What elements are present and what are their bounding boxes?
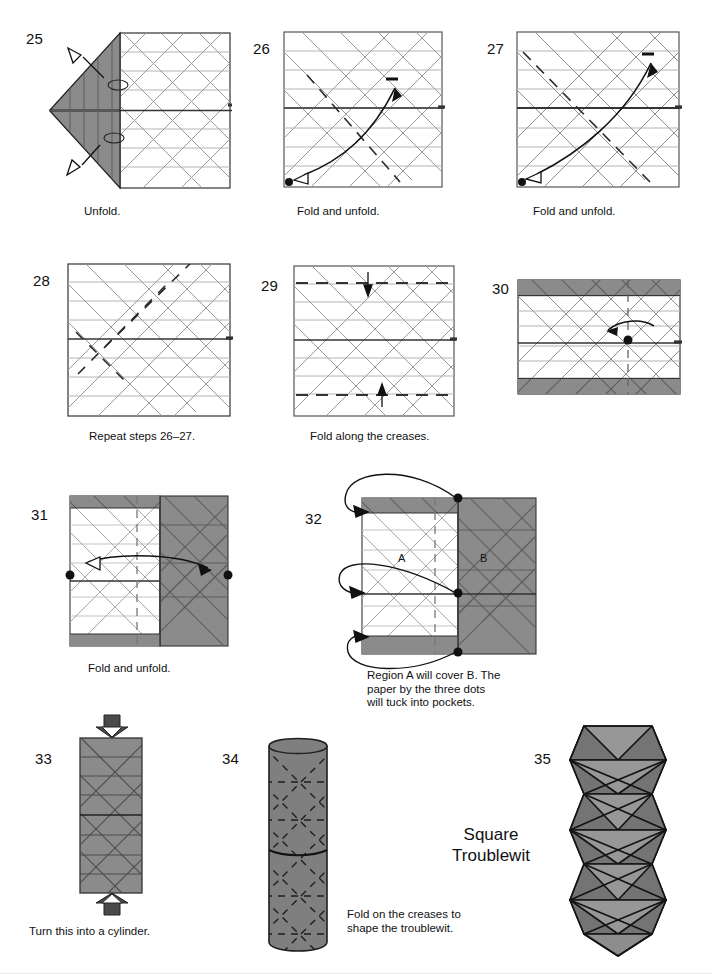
step-caption-32: Region A will cover B. The paper by the … bbox=[367, 669, 547, 710]
step-caption-25: Unfold. bbox=[84, 204, 120, 218]
diagram-page: 25 bbox=[0, 0, 712, 974]
step-figure-25 bbox=[40, 25, 240, 205]
step-figure-31 bbox=[60, 492, 240, 654]
step-figure-26 bbox=[282, 30, 452, 195]
step-caption-34: Fold on the creases to shape the trouble… bbox=[347, 908, 517, 935]
step-number-29: 29 bbox=[261, 277, 278, 294]
step-figure-27 bbox=[515, 30, 690, 195]
reference-dot-right bbox=[224, 571, 233, 580]
step-figure-32: A B bbox=[290, 480, 550, 660]
press-arrow-bottom bbox=[96, 893, 128, 915]
step-figure-34 bbox=[255, 728, 355, 958]
model-name: Square Troublewit bbox=[432, 824, 550, 866]
model-name-line1: Square bbox=[432, 824, 550, 845]
model-name-line2: Troublewit bbox=[432, 845, 550, 866]
step-figure-28 bbox=[66, 262, 238, 424]
step-figure-33 bbox=[58, 705, 168, 905]
step-caption-28: Repeat steps 26–27. bbox=[89, 429, 195, 443]
step-figure-29 bbox=[292, 264, 464, 422]
step-figure-35 bbox=[548, 712, 688, 962]
step-number-28: 28 bbox=[33, 272, 50, 289]
step-number-27: 27 bbox=[487, 40, 504, 57]
step-number-26: 26 bbox=[253, 40, 270, 57]
region-label-b: B bbox=[480, 552, 487, 564]
step-number-30: 30 bbox=[492, 280, 509, 297]
step-caption-27: Fold and unfold. bbox=[533, 204, 615, 218]
step-caption-26: Fold and unfold. bbox=[297, 204, 379, 218]
step-caption-29: Fold along the creases. bbox=[310, 429, 430, 443]
press-arrow-top bbox=[96, 715, 128, 738]
final-model-body bbox=[570, 726, 666, 956]
step-caption-33: Turn this into a cylinder. bbox=[29, 924, 150, 938]
reference-dot bbox=[285, 178, 293, 186]
step-number-31: 31 bbox=[31, 506, 48, 523]
step-number-33: 33 bbox=[35, 750, 52, 767]
step-number-34: 34 bbox=[222, 750, 239, 767]
step-caption-31: Fold and unfold. bbox=[88, 661, 170, 675]
reference-dot-left bbox=[66, 571, 75, 580]
region-label-a: A bbox=[398, 552, 406, 564]
reference-dot bbox=[624, 336, 633, 345]
step-figure-30 bbox=[516, 278, 688, 400]
